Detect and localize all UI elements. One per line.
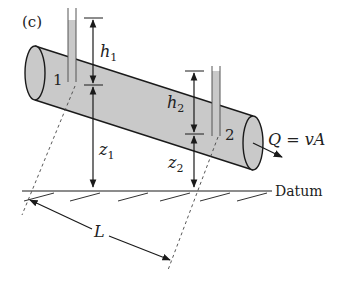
svg-text:z1: z1 bbox=[98, 140, 114, 162]
piezometer-tube-2 bbox=[212, 66, 220, 136]
piezometer-tube-1 bbox=[68, 8, 76, 82]
pipe-flow-diagram: (c) h1 z1 h2 bbox=[0, 0, 337, 293]
section-1-label: 1 bbox=[53, 71, 63, 89]
svg-text:L: L bbox=[93, 222, 105, 241]
section-line-1 bbox=[22, 86, 75, 215]
pipe-inlet-end bbox=[25, 46, 45, 100]
svg-text:h1: h1 bbox=[100, 42, 117, 64]
datum-line bbox=[22, 191, 272, 201]
datum-label: Datum bbox=[275, 183, 323, 199]
flow-label: Q = vA bbox=[268, 130, 325, 149]
svg-text:z2: z2 bbox=[167, 153, 183, 175]
section-2-label: 2 bbox=[225, 126, 235, 144]
length-dimension: L bbox=[30, 200, 170, 260]
panel-label: (c) bbox=[22, 13, 42, 31]
pipe bbox=[25, 46, 263, 170]
